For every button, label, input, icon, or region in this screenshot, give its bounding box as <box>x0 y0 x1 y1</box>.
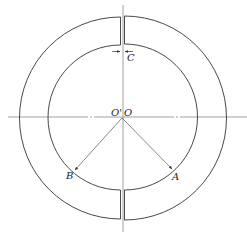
point-a-label: A <box>171 171 179 182</box>
radius-arrow-a <box>122 118 172 169</box>
gap-label: C <box>127 52 135 63</box>
radius-arrow-b <box>75 118 122 170</box>
right-half-ring <box>125 16 227 220</box>
center-right-label: O <box>124 107 132 118</box>
point-b-label: B <box>65 170 73 181</box>
split-ring-diagram: C O' O B A <box>0 0 247 241</box>
center-left-label: O' <box>111 107 122 118</box>
left-half-ring <box>20 17 121 219</box>
